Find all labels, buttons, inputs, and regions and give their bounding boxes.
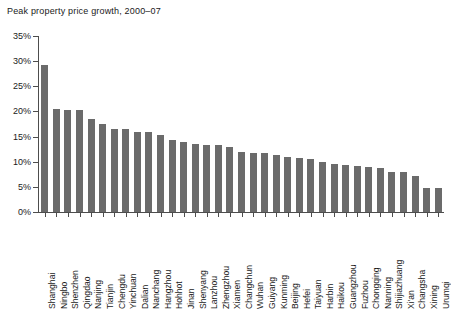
bar [412,176,419,212]
x-axis-category-label: Nanjing [94,280,103,309]
bar [296,158,303,212]
y-axis-tick-label: 5% [0,183,31,192]
x-axis-category-label: Shanghai [48,273,57,309]
y-axis-tick [33,86,38,87]
bar [261,153,268,212]
x-axis-tick [230,213,231,217]
x-axis-tick [299,213,300,217]
x-axis-category-label: Wuhan [256,282,265,309]
bar [169,140,176,212]
x-axis-tick [242,213,243,217]
bar [423,188,430,212]
y-axis-tick [33,137,38,138]
x-axis-tick [265,213,266,217]
x-axis-category-label: Nanning [384,277,393,309]
x-axis-tick [392,213,393,217]
x-axis-line [38,212,444,213]
y-axis-tick-label: 35% [0,32,31,41]
x-axis-tick [357,213,358,217]
bar [122,129,129,212]
x-axis-tick [276,213,277,217]
x-axis-tick [346,213,347,217]
y-axis-tick-label: 15% [0,133,31,142]
y-axis-tick [33,212,38,213]
x-axis-tick [184,213,185,217]
x-axis-category-label: Hefei [303,289,312,309]
y-axis-tick-label: 25% [0,82,31,91]
bar [53,109,60,212]
x-axis-tick [137,213,138,217]
bar [319,162,326,212]
bar [377,168,384,212]
x-axis-tick [80,213,81,217]
x-axis-tick [56,213,57,217]
x-axis-tick [218,213,219,217]
y-axis-tick [33,61,38,62]
x-axis-category-label: Guiyang [268,277,277,309]
x-axis-tick [415,213,416,217]
x-axis-category-label: Shijiazhuang [395,260,404,309]
bar [192,144,199,212]
x-axis-category-label: Urumqi [442,281,451,309]
bar [250,153,257,212]
bar [238,152,245,212]
y-axis-tick [33,187,38,188]
bar [273,155,280,212]
y-axis-tick [33,162,38,163]
bar [400,172,407,212]
bar [354,166,361,212]
bar [41,65,48,212]
x-axis-category-label: Zhengzhou [222,266,231,309]
x-axis-category-label: Fuzhou [361,280,370,309]
bar [157,135,164,212]
chart-title: Peak property price growth, 2000–07 [7,6,161,17]
x-axis-category-label: Guangzhou [349,265,358,309]
bar [388,172,395,212]
bar [435,188,442,212]
bar [180,142,187,212]
x-axis-category-label: Xiamen [233,280,242,309]
x-axis-tick [114,213,115,217]
bar [331,164,338,212]
bar [215,145,222,212]
x-axis-category-label: Changsha [418,270,427,309]
x-axis-category-label: Shenyang [199,270,208,309]
x-axis-category-label: Hohhot [175,281,184,309]
x-axis-category-label: Ningbo [60,282,69,309]
x-axis-category-label: Xining [430,285,439,309]
x-axis-tick [380,213,381,217]
bar [365,167,372,212]
x-axis-tick [103,213,104,217]
x-axis-tick [195,213,196,217]
bar [134,132,141,212]
x-axis-category-label: Lanzhou [210,276,219,309]
x-axis-category-label: Haikou [337,282,346,309]
bar [99,124,106,212]
x-axis-tick [288,213,289,217]
x-axis-category-label: Qingdao [83,277,92,310]
x-axis-tick [126,213,127,217]
x-axis-category-label: Xi'an [407,290,416,309]
y-axis-tick-label: 10% [0,158,31,167]
bar [76,110,83,212]
y-axis-tick-label: 0% [0,208,31,217]
bar [284,157,291,212]
x-axis-tick [369,213,370,217]
x-axis-tick [253,213,254,217]
x-axis-category-label: Changchun [245,265,254,309]
y-axis-tick-label: 20% [0,107,31,116]
y-axis-tick-label: 30% [0,57,31,66]
x-axis-tick [438,213,439,217]
x-axis-category-label: Shenzhen [71,270,80,309]
plot-area [39,36,444,212]
x-axis-tick [427,213,428,217]
x-axis-tick [311,213,312,217]
x-axis-category-label: Chengdu [118,274,127,309]
x-axis-tick [45,213,46,217]
bar [111,129,118,212]
x-axis-category-label: Harbin [326,284,335,309]
x-axis-category-label: Nanchang [152,270,161,309]
y-axis-tick [33,36,38,37]
bar [307,159,314,212]
